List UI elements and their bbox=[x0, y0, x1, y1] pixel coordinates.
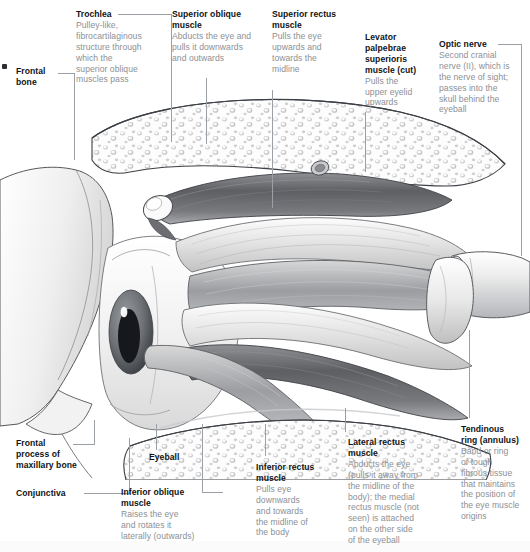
label-frontal-process: Frontal process of maxillary bone bbox=[16, 438, 106, 471]
label-inferior-rectus-title-1: Inferior rectus bbox=[256, 462, 334, 473]
label-optic-nerve-desc-1: Second cranial bbox=[439, 50, 525, 61]
leader-lateral-rectus-v bbox=[345, 408, 346, 432]
label-levator-palpebrae: Levator palpebrae superioris muscle (cut… bbox=[365, 32, 437, 108]
label-frontal-bone: Frontal bone bbox=[16, 66, 72, 88]
label-optic-nerve-desc-5: skull behind the bbox=[439, 94, 525, 105]
label-tendinous-ring-desc-4: that maintains bbox=[461, 479, 530, 490]
label-tendinous-ring-desc-2: of tough bbox=[461, 457, 530, 468]
label-lateral-rectus-desc-8: of the eyeball bbox=[348, 535, 440, 546]
label-lateral-rectus-desc-7: on the other side bbox=[348, 524, 440, 535]
label-inferior-oblique-desc-2: and rotates it bbox=[121, 520, 203, 531]
label-superior-oblique-muscle: Superior oblique muscle Abducts the eye … bbox=[172, 9, 268, 64]
label-optic-nerve-desc-3: the nerve of sight; bbox=[439, 72, 525, 83]
pupil-shape bbox=[118, 309, 140, 363]
label-trochlea-desc-6: muscles pass bbox=[76, 74, 162, 85]
label-optic-nerve-title: Optic nerve bbox=[439, 39, 525, 50]
label-tendinous-ring-desc-6: the eye muscle bbox=[461, 500, 530, 511]
label-inferior-rectus-title-2: muscle bbox=[256, 473, 334, 484]
label-lateral-rectus-desc-3: the midline of the bbox=[348, 481, 440, 492]
label-superior-rectus-desc-2: upwards and bbox=[272, 42, 362, 53]
label-superior-oblique-desc-2: pulls it downwards bbox=[172, 42, 268, 53]
label-inferior-rectus-desc-2: downwards bbox=[256, 495, 334, 506]
label-optic-nerve-desc-2: nerve (II), which is bbox=[439, 61, 525, 72]
label-superior-rectus-title-2: muscle bbox=[272, 20, 362, 31]
frontal-process-maxillary-shape bbox=[0, 167, 113, 478]
label-trochlea-desc-5: superior oblique bbox=[76, 64, 162, 75]
label-tendinous-ring-title-1: Tendinous bbox=[461, 424, 530, 435]
label-superior-rectus-desc-4: midline bbox=[272, 64, 362, 75]
leader-eyeball-v bbox=[156, 424, 157, 450]
label-eyeball-title: Eyeball bbox=[149, 452, 205, 463]
label-inferior-rectus-desc-5: the body bbox=[256, 527, 334, 538]
label-lateral-rectus-desc-5: rectus muscle (not bbox=[348, 502, 440, 513]
label-levator-desc-2: upper eyelid bbox=[365, 87, 437, 98]
label-trochlea-desc-4: which the bbox=[76, 53, 162, 64]
eye-muscle-illustration bbox=[0, 60, 530, 480]
label-inferior-oblique-desc-1: Raises the eye bbox=[121, 509, 203, 520]
label-levator-desc-3: upwards bbox=[365, 97, 437, 108]
label-lateral-rectus-desc-1: Abducts the eye bbox=[348, 459, 440, 470]
label-frontal-process-title-3: maxillary bone bbox=[16, 460, 106, 471]
label-inferior-rectus-desc-4: the midline of bbox=[256, 517, 334, 528]
label-inferior-oblique-title-2: muscle bbox=[121, 498, 203, 509]
label-eyeball: Eyeball bbox=[149, 452, 205, 463]
label-conjunctiva-title: Conjunctiva bbox=[16, 488, 88, 499]
label-optic-nerve-desc-6: eyeball bbox=[439, 104, 525, 115]
label-tendinous-ring-title-2: ring (annulus) bbox=[461, 435, 530, 446]
label-inferior-oblique-title-1: Inferior oblique bbox=[121, 487, 203, 498]
label-lateral-rectus-desc-6: seen) is attached bbox=[348, 513, 440, 524]
leader-frontal-bone-v bbox=[74, 73, 75, 160]
label-frontal-bone-title-1: Frontal bbox=[16, 66, 72, 77]
label-frontal-bone-title-2: bone bbox=[16, 77, 72, 88]
leader-inferior-rectus-v bbox=[265, 424, 266, 456]
label-conjunctiva: Conjunctiva bbox=[16, 488, 88, 499]
label-trochlea-desc-3: structure through bbox=[76, 42, 162, 53]
label-optic-nerve: Optic nerve Second cranial nerve (II), w… bbox=[439, 39, 525, 115]
label-lateral-rectus-desc-2: (pulls it away from bbox=[348, 470, 440, 481]
label-inferior-rectus-desc-3: and towards bbox=[256, 506, 334, 517]
leader-inferior-oblique-h bbox=[203, 492, 223, 493]
label-tendinous-ring-desc-7: origins bbox=[461, 511, 530, 522]
label-lateral-rectus-title-1: Lateral rectus bbox=[348, 437, 440, 448]
label-trochlea-title: Trochlea bbox=[76, 9, 162, 20]
label-levator-desc-1: Pulls the bbox=[365, 76, 437, 87]
label-lateral-rectus-title-2: muscle bbox=[348, 448, 440, 459]
label-superior-rectus-title-1: Superior rectus bbox=[272, 9, 362, 20]
label-superior-oblique-title-1: Superior oblique bbox=[172, 9, 268, 20]
label-levator-title-2: palpebrae bbox=[365, 43, 437, 54]
left-edge-marker bbox=[2, 64, 7, 69]
leader-conjunctiva-v bbox=[129, 438, 130, 494]
leader-tendinous-ring-v bbox=[469, 330, 470, 418]
label-superior-rectus-desc-1: Pulls the eye bbox=[272, 31, 362, 42]
label-levator-title-1: Levator bbox=[365, 32, 437, 43]
label-trochlea: Trochlea Pulley-like, fibrocartilaginous… bbox=[76, 9, 162, 85]
label-superior-oblique-desc-3: and outwards bbox=[172, 53, 268, 64]
diagram-canvas: Frontal bone Trochlea Pulley-like, fibro… bbox=[0, 0, 530, 552]
label-tendinous-ring: Tendinous ring (annulus) Band or ring of… bbox=[461, 424, 530, 522]
label-tendinous-ring-desc-3: fibrous tissue bbox=[461, 468, 530, 479]
label-inferior-rectus-muscle: Inferior rectus muscle Pulls eye downwar… bbox=[256, 462, 334, 538]
label-tendinous-ring-desc-5: the position of bbox=[461, 489, 530, 500]
label-lateral-rectus-muscle: Lateral rectus muscle Abducts the eye (p… bbox=[348, 437, 440, 546]
label-tendinous-ring-desc-1: Band or ring bbox=[461, 446, 530, 457]
label-optic-nerve-desc-4: passes into the bbox=[439, 83, 525, 94]
label-inferior-rectus-desc-1: Pulls eye bbox=[256, 484, 334, 495]
label-levator-title-3: superioris bbox=[365, 54, 437, 65]
label-superior-rectus-desc-3: towards the bbox=[272, 53, 362, 64]
label-lateral-rectus-desc-4: body); the medial bbox=[348, 492, 440, 503]
leader-levator-palpebrae-v bbox=[365, 112, 366, 172]
bottom-band bbox=[0, 541, 530, 552]
leader-superior-oblique-v bbox=[206, 78, 207, 144]
label-levator-title-4: muscle (cut) bbox=[365, 65, 437, 76]
label-inferior-oblique-muscle: Inferior oblique muscle Raises the eye a… bbox=[121, 487, 203, 542]
label-superior-oblique-desc-1: Abducts the eye and bbox=[172, 31, 268, 42]
label-trochlea-desc-2: fibrocartilaginous bbox=[76, 31, 162, 42]
label-superior-oblique-title-2: muscle bbox=[172, 20, 268, 31]
label-trochlea-desc-1: Pulley-like, bbox=[76, 20, 162, 31]
tendinous-ring-shape bbox=[427, 257, 474, 343]
label-superior-rectus-muscle: Superior rectus muscle Pulls the eye upw… bbox=[272, 9, 362, 74]
label-frontal-process-title-2: process of bbox=[16, 449, 106, 460]
label-frontal-process-title-1: Frontal bbox=[16, 438, 106, 449]
label-inferior-oblique-desc-3: laterally (outwards) bbox=[121, 531, 203, 542]
leader-superior-rectus-v bbox=[272, 90, 273, 208]
